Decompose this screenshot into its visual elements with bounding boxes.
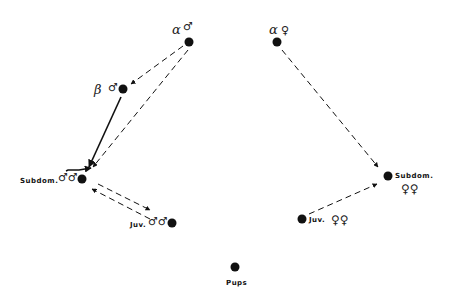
female-symbol-icon: ♀: [281, 25, 289, 36]
edge-alpha-to-subdom: [93, 50, 188, 167]
node-alpha-female: [273, 38, 282, 47]
beta-male-greek: β: [94, 82, 102, 97]
edge-juvF-to-subdomF: [309, 184, 377, 214]
alpha-male-greek: α: [172, 22, 181, 37]
edge-juv-to-subdom: [92, 189, 150, 219]
male-symbols-icon: ♂♂: [148, 216, 168, 227]
male-symbols-icon: ♂♂: [58, 172, 78, 183]
subdom-females-label: Subdom.: [395, 172, 433, 180]
edge-beta-to-subdom: [89, 97, 121, 167]
node-pups: [231, 263, 240, 272]
alpha-female-greek: α: [269, 22, 278, 37]
male-symbol-icon: ♂: [108, 82, 118, 93]
subdom-males-label: Subdom.: [20, 177, 58, 185]
node-juv-females: [298, 215, 307, 224]
juv-males-label: Juv.: [130, 221, 146, 229]
edge-alpha-to-beta: [131, 46, 183, 84]
node-juv-males: [168, 219, 177, 228]
node-subdom-females: [384, 172, 393, 181]
node-beta-male: [119, 85, 128, 94]
hierarchy-diagram: [0, 0, 449, 296]
edge-alphaF-to-subdomF: [282, 50, 378, 167]
juv-females-label: Juv.: [309, 216, 325, 224]
male-symbol-icon: ♂: [183, 21, 193, 32]
edge-subdom-to-juv: [98, 184, 150, 210]
node-alpha-male: [185, 38, 194, 47]
female-symbols-icon: ♀♀: [401, 183, 419, 195]
node-subdom-males: [78, 175, 87, 184]
female-symbols-icon: ♀♀: [331, 214, 349, 226]
pups-label: Pups: [226, 279, 247, 287]
